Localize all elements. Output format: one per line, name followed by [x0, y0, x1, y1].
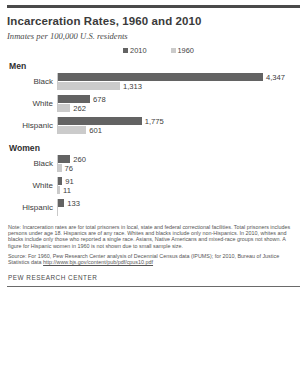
bar-value-1960: 76: [65, 164, 73, 173]
bar-line-2010: 133: [58, 199, 300, 207]
org-credit: PEW RESEARCH CENTER: [7, 274, 300, 281]
legend-item-1960: 1960: [171, 46, 194, 55]
bar-pair: 4,3471,313: [57, 73, 300, 90]
bar-1960[interactable]: [58, 126, 86, 134]
bar-pair: 9111: [57, 177, 300, 194]
bar-line-2010: 1,775: [58, 117, 300, 125]
chart-row: Black26076: [7, 155, 300, 172]
bar-pair: 26076: [57, 155, 300, 172]
legend-label-2010: 2010: [130, 46, 146, 55]
category-label: Black: [7, 159, 57, 168]
bar-value-1960: 262: [73, 104, 86, 113]
chart-row: White9111: [7, 177, 300, 194]
bar-2010[interactable]: [58, 117, 142, 125]
chart-note: Note: Incarceration rates are for total …: [7, 224, 300, 249]
page-title: Incarceration Rates, 1960 and 2010: [7, 15, 300, 28]
chart-rows: Black26076White9111Hispanic133: [7, 155, 300, 216]
bar-line-2010: 91: [58, 177, 300, 185]
chart-row: Hispanic133: [7, 199, 300, 216]
bar-pair: 678262: [57, 95, 300, 112]
bar-2010[interactable]: [58, 73, 263, 81]
bar-value-2010: 678: [93, 95, 106, 104]
category-label: White: [7, 181, 57, 190]
bar-value-1960: 601: [89, 126, 102, 135]
category-label: White: [7, 99, 57, 108]
bar-value-2010: 91: [65, 177, 73, 186]
bar-line-1960: 11: [58, 186, 300, 194]
page-subtitle: Inmates per 100,000 U.S. residents: [7, 31, 300, 41]
bar-line-1960: 1,313: [58, 82, 300, 90]
bar-value-2010: 1,775: [145, 117, 164, 126]
category-label: Black: [7, 77, 57, 86]
legend-item-2010: 2010: [123, 46, 146, 55]
bar-2010[interactable]: [58, 177, 62, 185]
bar-line-1960: 76: [58, 164, 300, 172]
bar-1960[interactable]: [58, 186, 60, 194]
bar-2010[interactable]: [58, 199, 64, 207]
bar-value-1960: 1,313: [123, 82, 142, 91]
chart-row: Hispanic1,775601: [7, 117, 300, 134]
bar-1960[interactable]: [58, 104, 70, 112]
chart-groups: MenBlack4,3471,313White678262Hispanic1,7…: [7, 61, 300, 216]
group-title-women: Women: [7, 143, 300, 153]
chart-row: Black4,3471,313: [7, 73, 300, 90]
chart-rows: Black4,3471,313White678262Hispanic1,7756…: [7, 73, 300, 134]
bar-value-2010: 260: [73, 155, 86, 164]
top-divider: [7, 5, 300, 8]
chart-legend: 2010 1960: [7, 46, 300, 55]
group-title-men: Men: [7, 61, 300, 71]
chart-source: Source: For 1960, Pew Research Center an…: [7, 253, 300, 265]
category-label: Hispanic: [7, 203, 57, 212]
bar-1960[interactable]: [58, 164, 62, 172]
source-link[interactable]: http://www.bjs.gov/content/pub/pdf/cpus1…: [43, 259, 153, 265]
bar-pair: 133: [57, 199, 300, 216]
category-label: Hispanic: [7, 121, 57, 130]
bar-line-1960: 262: [58, 104, 300, 112]
bar-line-2010: 4,347: [58, 73, 300, 81]
bar-pair: 1,775601: [57, 117, 300, 134]
bar-line-1960: [58, 208, 300, 216]
bar-value-2010: 133: [67, 199, 80, 208]
bar-2010[interactable]: [58, 95, 90, 103]
bar-line-2010: 678: [58, 95, 300, 103]
infographic-page: Incarceration Rates, 1960 and 2010 Inmat…: [0, 5, 307, 376]
bar-1960[interactable]: [58, 82, 120, 90]
bar-2010[interactable]: [58, 155, 70, 163]
bar-line-2010: 260: [58, 155, 300, 163]
legend-swatch-1960: [171, 48, 176, 53]
bar-value-1960: 11: [63, 186, 71, 195]
legend-swatch-2010: [123, 48, 128, 53]
bar-line-1960: 601: [58, 126, 300, 134]
chart-row: White678262: [7, 95, 300, 112]
legend-label-1960: 1960: [178, 46, 194, 55]
bar-value-2010: 4,347: [266, 73, 285, 82]
bottom-divider: [7, 286, 300, 287]
